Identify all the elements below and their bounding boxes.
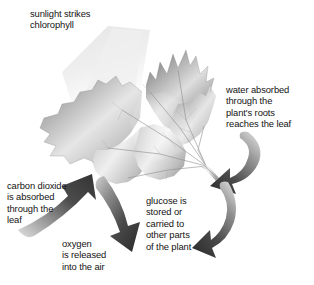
leaf-stem bbox=[201, 164, 219, 181]
label-water-absorbed: water absorbed through the plant's roots… bbox=[226, 84, 291, 130]
label-carbon-dioxide-absorbed: carbon dioxide is absorbed through the l… bbox=[7, 180, 67, 226]
photosynthesis-diagram: sunlight strikes chlorophyll water absor… bbox=[0, 0, 314, 285]
label-oxygen-released: oxygen is released into the air bbox=[62, 238, 106, 272]
glucose-outflow-arrow bbox=[192, 182, 236, 258]
label-sunlight-strikes-chlorophyll: sunlight strikes chlorophyll bbox=[30, 8, 90, 31]
water-inflow-arrow bbox=[210, 132, 260, 194]
label-glucose-stored: glucose is stored or carried to other pa… bbox=[146, 195, 191, 252]
